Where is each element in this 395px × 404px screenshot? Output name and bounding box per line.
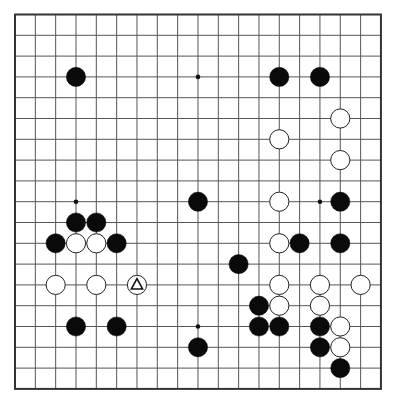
- black-stone: [310, 67, 329, 86]
- white-stone: [270, 130, 289, 149]
- black-stone: [66, 213, 85, 232]
- white-stone: [66, 234, 85, 253]
- white-stone: [310, 275, 329, 294]
- white-stone: [270, 275, 289, 294]
- star-point: [318, 199, 323, 204]
- black-stone: [46, 234, 65, 253]
- star-point: [74, 199, 79, 204]
- black-stone: [188, 338, 207, 357]
- black-stone: [87, 213, 106, 232]
- white-stone: [331, 109, 350, 128]
- black-stone: [107, 317, 126, 336]
- black-stone: [310, 317, 329, 336]
- black-stone: [249, 317, 268, 336]
- black-stone: [249, 296, 268, 315]
- white-stone: [331, 151, 350, 170]
- black-stone: [229, 255, 248, 274]
- white-stone: [270, 192, 289, 211]
- white-stone: [270, 296, 289, 315]
- go-board[interactable]: [0, 0, 395, 404]
- star-point: [196, 324, 201, 329]
- black-stone: [331, 234, 350, 253]
- black-stone: [310, 338, 329, 357]
- white-stone: [46, 275, 65, 294]
- go-board-canvas[interactable]: [0, 0, 395, 404]
- black-stone: [290, 234, 309, 253]
- white-stone: [87, 234, 106, 253]
- white-stone: [331, 338, 350, 357]
- black-stone: [270, 67, 289, 86]
- star-point: [196, 75, 201, 80]
- black-stone: [188, 192, 207, 211]
- white-stone: [270, 234, 289, 253]
- black-stone: [331, 192, 350, 211]
- black-stone: [331, 359, 350, 378]
- white-stone: [331, 317, 350, 336]
- white-stone: [87, 275, 106, 294]
- black-stone: [107, 234, 126, 253]
- black-stone: [270, 317, 289, 336]
- black-stone: [66, 67, 85, 86]
- white-stone: [310, 296, 329, 315]
- white-stone: [351, 275, 370, 294]
- black-stone: [66, 317, 85, 336]
